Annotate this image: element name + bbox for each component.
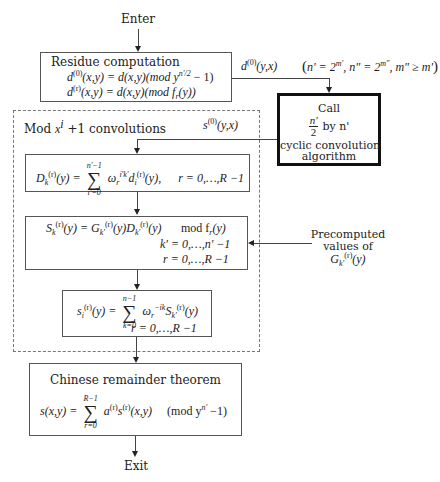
- precomputed-label: Precomputed values of Gk'(r)(y): [305, 229, 391, 265]
- residue-equation-2: d(r)(x,y) = d(x,y)(mod fr(y)): [67, 86, 196, 99]
- call-to-dft-connector-vertical: [137, 139, 138, 148]
- inverse-range: r = 0,…,R −1: [131, 322, 197, 335]
- call-label: Call: [280, 102, 378, 115]
- pointwise-product-box: Sk(r)(y) = Gk'(r)(y)Dk'(r)(y) mod fr(y) …: [25, 216, 248, 270]
- inverse-transform-box: si(r)(y) = n−1∑k=0 ωr−ikSk'(r)(y) r = 0,…: [62, 290, 212, 337]
- enter-label: Enter: [112, 13, 164, 26]
- residue-to-call-connector-vertical: [329, 78, 330, 87]
- residue-computation-box: Residue computation d(0)(x,y) = d(x,y)(m…: [40, 52, 232, 102]
- forward-transform-box: Dk(r)(y) = n'−1∑i'=0 ωri'k'di(r)(y), r =…: [25, 154, 250, 192]
- summation-icon: n'−1∑i'=0: [87, 161, 102, 197]
- dft-to-product-connector: [137, 192, 138, 209]
- convolutions-title: Mod xi +1 convolutions: [24, 123, 166, 136]
- residue-title: Residue computation: [51, 56, 180, 69]
- convolutions-input-label: s(0)(y,x): [203, 119, 238, 132]
- size-condition: (n' = 2m', n" = 2m", m" ≥ m'): [302, 60, 438, 74]
- arrow-left-icon: [248, 240, 254, 246]
- product-range-k: k' = 0,…,n' −1: [160, 238, 230, 251]
- residue-equation-1: d(0)(x,y) = d(x,y)(mod yn'/2 − 1): [67, 71, 213, 84]
- arrow-down-icon: [132, 451, 138, 457]
- residue-output-label: d(0)(y,x): [241, 60, 277, 73]
- crt-to-exit-connector: [135, 436, 136, 451]
- precomputed-connector: [254, 243, 312, 244]
- summation-icon: R−1∑r=0: [83, 394, 97, 430]
- product-modulus: mod fr(y): [181, 222, 226, 235]
- product-to-inverse-connector: [137, 270, 138, 284]
- inverse-to-crt-connector: [136, 337, 137, 357]
- chinese-remainder-box: Chinese remainder theorem s(x,y) = R−1∑r…: [29, 363, 242, 436]
- exit-label: Exit: [110, 460, 162, 473]
- call-algorithm-label: algorithm: [280, 150, 378, 163]
- crt-equation: s(x,y) = R−1∑r=0 a(r)s(r)(x,y) (mod yn' …: [40, 394, 227, 430]
- product-range-r: r = 0,…,R −1: [163, 253, 229, 266]
- call-fraction-line: n'2by n': [280, 115, 378, 138]
- forward-transform-equation: Dk(r)(y) = n'−1∑i'=0 ωri'k'di(r)(y), r =…: [36, 161, 244, 197]
- enter-connector: [138, 29, 139, 46]
- product-equation: Sk(r)(y) = Gk'(r)(y)Dk'(r)(y): [46, 222, 162, 235]
- arrow-down-icon: [134, 209, 140, 215]
- crt-title: Chinese remainder theorem: [30, 374, 241, 387]
- residue-to-call-connector: [232, 78, 329, 79]
- call-to-dft-connector: [137, 139, 277, 140]
- call-cyclic-convolution-box: Call n'2by n' cyclic convolution algorit…: [277, 93, 381, 166]
